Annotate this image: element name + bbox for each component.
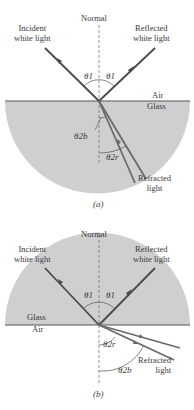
- refracted-label-a: Refracted light: [138, 174, 171, 193]
- theta2r-label-b: θ2r: [103, 340, 115, 350]
- glass-label-a: Glass: [147, 102, 166, 112]
- theta1-reflected-label-a: θ1: [106, 72, 115, 82]
- caption-b: (b): [93, 390, 104, 400]
- reflected-label-a: Reflected white light: [133, 24, 170, 43]
- normal-label-a: Normal: [81, 14, 107, 24]
- theta1-reflected-label-b: θ1: [106, 291, 115, 301]
- theta2r-label-a: θ2r: [106, 153, 118, 163]
- incident-label-a: Incident white light: [14, 24, 51, 43]
- reflected-label-b: Reflected white light: [133, 245, 170, 264]
- incident-label-b: Incident white light: [14, 245, 51, 264]
- glass-label-b: Glass: [27, 313, 46, 323]
- theta2b-label-b: θ2b: [118, 366, 131, 376]
- theta2b-label-a: θ2b: [74, 132, 87, 142]
- theta1-incident-label-a: θ1: [84, 72, 93, 82]
- normal-label-b: Normal: [81, 230, 107, 240]
- arrow-icon: [139, 334, 144, 338]
- refracted-label-b: Refracted light: [138, 356, 171, 375]
- theta1-incident-label-b: θ1: [84, 291, 93, 301]
- caption-a: (a): [93, 200, 104, 210]
- air-label-b: Air: [32, 325, 43, 335]
- air-label-a: Air: [152, 91, 163, 101]
